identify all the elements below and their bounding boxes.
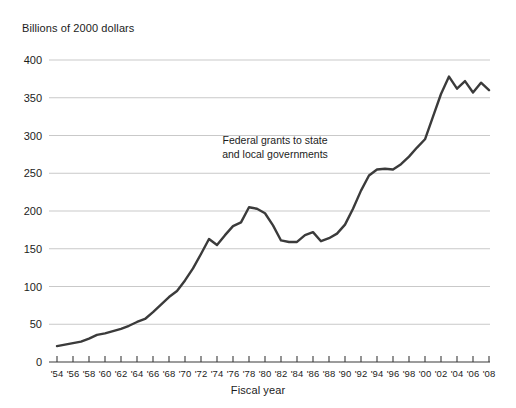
- y-tick-label: 200: [8, 205, 42, 217]
- y-tick-label: 350: [8, 92, 42, 104]
- y-tick-label: 50: [8, 318, 42, 330]
- series-annotation: Federal grants to state and local govern…: [200, 133, 350, 161]
- chart-container: Billions of 2000 dollars Fiscal year Fed…: [0, 0, 516, 408]
- y-tick-label: 250: [8, 167, 42, 179]
- annotation-line-2: and local governments: [200, 147, 350, 161]
- y-tick-label: 400: [8, 54, 42, 66]
- y-tick-label: 150: [8, 243, 42, 255]
- x-axis-title: Fiscal year: [0, 384, 516, 396]
- line-chart-plot: [0, 0, 516, 408]
- y-tick-label: 300: [8, 130, 42, 142]
- y-tick-label: 100: [8, 281, 42, 293]
- gridline-group: [49, 60, 490, 324]
- annotation-line-1: Federal grants to state: [200, 133, 350, 147]
- y-axis-title: Billions of 2000 dollars: [22, 22, 134, 34]
- y-tick-label: 0: [8, 356, 42, 368]
- x-tick-group: [57, 356, 489, 362]
- x-tick-label: '08: [476, 368, 502, 379]
